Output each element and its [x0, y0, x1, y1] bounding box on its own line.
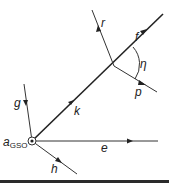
- label-origin: aGSO: [3, 135, 27, 150]
- origin-dot-icon: [30, 139, 33, 142]
- label-e: e: [101, 141, 108, 155]
- bottom-border: [0, 180, 169, 183]
- arrow-e-icon: [127, 139, 133, 144]
- vector-g-line: [24, 84, 32, 141]
- label-origin-subscript: GSO: [10, 141, 28, 150]
- arrow-f-icon: [140, 29, 147, 35]
- angle-eta-arc: [133, 47, 140, 79]
- label-p: p: [134, 85, 142, 99]
- geometry-diagram: r f η p g k e h aGSO: [0, 0, 169, 183]
- label-r: r: [101, 16, 106, 30]
- label-eta: η: [140, 57, 147, 71]
- label-k: k: [74, 104, 81, 118]
- label-h: h: [51, 162, 58, 176]
- label-g: g: [14, 96, 21, 110]
